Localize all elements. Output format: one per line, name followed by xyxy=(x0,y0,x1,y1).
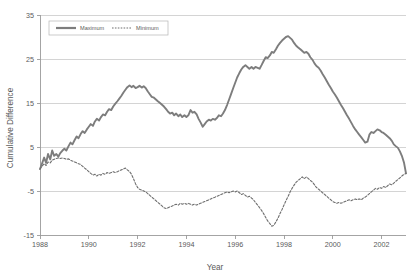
y-tick-label-5: 5 xyxy=(30,143,34,152)
y-axis-title: Cumulative Difference xyxy=(6,87,15,168)
x-tick-label-1998: 1998 xyxy=(276,240,292,249)
x-tick-label-1988: 1988 xyxy=(32,240,48,249)
x-tick-label-2002: 2002 xyxy=(374,240,390,249)
series-line-minimum xyxy=(40,158,406,226)
series-line-maximum xyxy=(40,36,406,173)
y-tick-label-25: 25 xyxy=(26,55,34,64)
legend-label-maximum: Maximum xyxy=(80,25,105,31)
x-axis-tick-labels: 19881990199219941996199820002002 xyxy=(32,240,390,249)
y-tick-label-35: 35 xyxy=(26,11,34,20)
x-tick-label-1994: 1994 xyxy=(178,240,194,249)
x-tick-label-2000: 2000 xyxy=(325,240,341,249)
y-axis-tick-labels: 3525155-5-15 xyxy=(24,11,34,240)
y-tick-label--15: -15 xyxy=(24,231,34,240)
y-tick-label-15: 15 xyxy=(26,99,34,108)
chart-legend: MaximumMinimum xyxy=(49,21,168,35)
chart-container: 3525155-5-15 198819901992199419961998200… xyxy=(0,0,411,276)
x-axis-title: Year xyxy=(207,263,224,272)
y-tick-label--5: -5 xyxy=(28,187,34,196)
x-tick-label-1996: 1996 xyxy=(227,240,243,249)
x-tick-label-1992: 1992 xyxy=(130,240,146,249)
axis-lines xyxy=(40,15,406,235)
gridlines xyxy=(40,15,406,191)
line-chart: 3525155-5-15 198819901992199419961998200… xyxy=(0,0,411,276)
data-series xyxy=(40,36,406,226)
x-tick-label-1990: 1990 xyxy=(81,240,97,249)
legend-label-minimum: Minimum xyxy=(136,25,159,31)
